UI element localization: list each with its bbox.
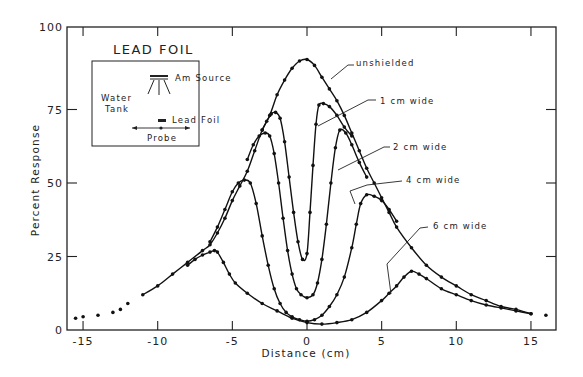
data-point-1-cm-wide — [269, 112, 273, 116]
data-point-unshielded — [469, 293, 473, 297]
data-point-unshielded — [298, 59, 302, 63]
data-point-1-cm-wide — [328, 105, 332, 109]
y-axis-title: Percent Response — [29, 124, 41, 236]
data-point-2-cm-wide — [246, 158, 250, 162]
data-point-6-cm-wide — [260, 302, 264, 306]
data-point-6-cm-wide — [320, 322, 324, 326]
data-point-unshielded — [335, 99, 339, 103]
data-point-2-cm-wide — [316, 281, 320, 285]
data-point-unshielded — [96, 314, 100, 318]
data-point-6-cm-wide — [365, 311, 369, 315]
inset-label-tank-1: Water — [101, 93, 132, 103]
am-source-icon — [148, 76, 170, 95]
data-point-1-cm-wide — [322, 102, 326, 106]
lead-foil-icon — [158, 119, 166, 122]
data-point-1-cm-wide — [278, 117, 282, 121]
data-point-1-cm-wide — [308, 211, 312, 215]
data-point-4-cm-wide — [231, 190, 235, 194]
data-point-unshielded — [455, 284, 459, 288]
data-point-6-cm-wide — [484, 303, 488, 307]
data-point-2-cm-wide — [252, 143, 256, 147]
data-point-unshielded — [156, 284, 160, 288]
data-point-2-cm-wide — [257, 134, 261, 138]
data-point-6-cm-wide — [290, 316, 294, 320]
data-point-2-cm-wide — [350, 143, 354, 147]
x-tick-label: 10 — [448, 335, 464, 348]
data-point-unshielded — [544, 314, 548, 318]
data-point-unshielded — [231, 199, 235, 203]
y-tick-label: 50 — [47, 177, 63, 190]
data-point-6-cm-wide — [529, 312, 533, 316]
data-point-2-cm-wide — [305, 296, 309, 300]
series-line-4-cm-wide — [210, 180, 397, 321]
data-point-4-cm-wide — [237, 181, 241, 185]
data-point-6-cm-wide — [425, 277, 429, 281]
data-point-unshielded — [365, 167, 369, 171]
x-tick-label: -15 — [73, 335, 94, 348]
data-point-4-cm-wide — [223, 208, 227, 212]
data-point-4-cm-wide — [272, 287, 276, 291]
data-point-6-cm-wide — [208, 250, 212, 254]
series-1-cm-wide — [260, 102, 353, 261]
y-tick-label: 0 — [55, 324, 63, 337]
data-point-unshielded — [201, 249, 205, 253]
data-point-unshielded — [305, 58, 309, 62]
annotation-label-2-cm-wide: 2 cm wide — [393, 142, 448, 152]
data-point-6-cm-wide — [469, 299, 473, 303]
data-point-unshielded — [223, 217, 227, 221]
data-point-unshielded — [253, 149, 257, 153]
y-tick-label: 100 — [39, 21, 63, 34]
annotation-leader-unshielded — [331, 65, 354, 79]
annotation-label-6-cm-wide: 6 cm wide — [433, 221, 488, 231]
data-point-6-cm-wide — [455, 293, 459, 297]
probe-icon — [132, 126, 190, 130]
data-point-4-cm-wide — [243, 178, 247, 182]
data-point-1-cm-wide — [305, 252, 309, 256]
inset-label-tank-2: Tank — [104, 104, 129, 114]
chart-svg: LEAD FOIL Am Source Water Tank Lead Foil… — [0, 0, 583, 377]
data-point-6-cm-wide — [350, 318, 354, 322]
data-point-4-cm-wide — [359, 202, 363, 206]
data-point-unshielded — [126, 302, 130, 306]
series-6-cm-wide — [186, 249, 533, 326]
data-point-2-cm-wide — [344, 131, 348, 135]
annotation-leader-2-cm-wide — [338, 147, 390, 170]
data-point-1-cm-wide — [265, 120, 269, 124]
data-point-6-cm-wide — [186, 264, 190, 268]
data-point-6-cm-wide — [380, 299, 384, 303]
data-point-4-cm-wide — [365, 193, 369, 197]
data-point-2-cm-wide — [281, 217, 285, 221]
data-point-4-cm-wide — [328, 305, 332, 309]
data-point-6-cm-wide — [305, 321, 309, 325]
data-point-1-cm-wide — [301, 258, 305, 262]
x-tick-label: 0 — [303, 335, 311, 348]
data-point-1-cm-wide — [260, 128, 264, 132]
data-point-unshielded — [119, 308, 123, 312]
data-point-4-cm-wide — [395, 219, 399, 223]
data-point-6-cm-wide — [440, 287, 444, 291]
data-point-unshielded — [484, 299, 488, 303]
y-tick-label: 75 — [47, 104, 63, 117]
data-point-1-cm-wide — [314, 122, 318, 126]
chart-title: LEAD FOIL — [113, 42, 194, 57]
data-point-4-cm-wide — [372, 194, 376, 198]
data-point-unshielded — [111, 311, 115, 315]
data-point-4-cm-wide — [284, 311, 288, 315]
data-point-unshielded — [275, 93, 279, 97]
data-point-6-cm-wide — [228, 272, 232, 276]
data-point-1-cm-wide — [317, 103, 321, 107]
data-point-unshielded — [425, 264, 429, 268]
x-tick-label: 5 — [378, 335, 386, 348]
x-tick-label: 15 — [523, 335, 539, 348]
data-point-4-cm-wide — [266, 264, 270, 268]
annotation-label-unshielded: unshielded — [356, 58, 415, 68]
data-point-2-cm-wide — [334, 146, 338, 150]
data-point-4-cm-wide — [343, 275, 347, 279]
data-point-4-cm-wide — [320, 314, 324, 318]
x-axis-title: Distance (cm) — [261, 347, 350, 359]
data-point-4-cm-wide — [249, 181, 253, 185]
data-point-2-cm-wide — [325, 222, 329, 226]
data-point-2-cm-wide — [272, 152, 276, 156]
annotation-leader-4-cm-wide — [350, 181, 402, 204]
data-point-4-cm-wide — [350, 246, 354, 250]
